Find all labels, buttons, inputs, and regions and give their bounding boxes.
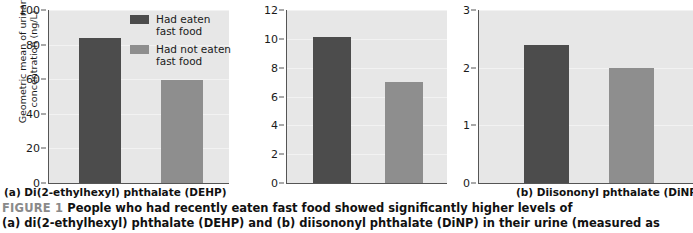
legend-swatch-had-eaten: [130, 15, 149, 24]
y-tick-label: 1: [463, 119, 470, 132]
gridline: [479, 10, 693, 11]
legend-item-had-not-eaten: Had not eaten fast food: [130, 43, 231, 67]
plot-area-b: [287, 10, 447, 183]
y-tick-label: 8: [271, 61, 278, 74]
y-tick-mark: [41, 148, 46, 149]
y-tick-label: 40: [26, 107, 40, 120]
legend-label-had-eaten: Had eaten fast food: [156, 13, 210, 37]
y-tick-label: 0: [463, 177, 470, 190]
gridline: [287, 154, 447, 155]
gridline: [287, 10, 447, 11]
x-axis-line-b: [286, 183, 447, 184]
gridline: [287, 125, 447, 126]
y-tick-mark: [41, 113, 46, 114]
x-axis-line-a: [48, 183, 229, 184]
chart-panel-c: 0123 (c) Bisphenol A (BPA): [452, 0, 693, 200]
y-tick-label: 20: [26, 142, 40, 155]
chart-panel-b: 024681012 (b) Diisononyl phthalate (DiNP…: [252, 0, 452, 200]
bar-b-had-eaten: [313, 37, 351, 183]
legend: Had eaten fast food Had not eaten fast f…: [130, 13, 231, 73]
y-tick-mark: [41, 183, 46, 184]
caption-text-1: People who had recently eaten fast food …: [67, 201, 572, 215]
y-tick-mark: [41, 10, 46, 11]
y-tick-label: 12: [264, 4, 278, 17]
y-tick-mark: [471, 10, 476, 11]
y-tick-mark: [41, 79, 46, 80]
y-axis-ticks-c: 0123: [448, 0, 478, 200]
y-tick-label: 100: [19, 4, 40, 17]
gridline: [49, 10, 229, 11]
figure-caption: FIGURE 1 People who had recently eaten f…: [0, 201, 693, 233]
y-tick-mark: [279, 183, 284, 184]
bar-a-had-not-eaten: [161, 80, 203, 183]
y-tick-label: 2: [463, 61, 470, 74]
caption-line-2: (a) di(2-ethylhexyl) phthalate (DEHP) an…: [0, 216, 693, 231]
gridline: [287, 39, 447, 40]
caption-line-1: FIGURE 1 People who had recently eaten f…: [0, 201, 693, 216]
y-tick-mark: [471, 183, 476, 184]
y-axis-ticks-b: 024681012: [256, 0, 286, 200]
y-tick-label: 2: [271, 148, 278, 161]
y-tick-mark: [279, 10, 284, 11]
y-tick-mark: [279, 96, 284, 97]
y-tick-label: 0: [271, 177, 278, 190]
y-tick-mark: [41, 44, 46, 45]
y-tick-mark: [279, 67, 284, 68]
bar-b-had-not-eaten: [385, 82, 423, 183]
y-tick-label: 4: [271, 119, 278, 132]
y-tick-mark: [471, 67, 476, 68]
y-tick-mark: [279, 125, 284, 126]
y-tick-label: 3: [463, 4, 470, 17]
y-tick-label: 80: [26, 38, 40, 51]
y-axis-ticks-a: 020406080100: [18, 0, 48, 200]
legend-item-had-eaten: Had eaten fast food: [130, 13, 231, 37]
y-tick-mark: [279, 154, 284, 155]
y-tick-label: 10: [264, 32, 278, 45]
legend-label-had-not-eaten: Had not eaten fast food: [156, 43, 231, 67]
legend-swatch-had-not-eaten: [130, 45, 149, 54]
y-tick-mark: [279, 38, 284, 39]
gridline: [287, 97, 447, 98]
y-tick-label: 60: [26, 73, 40, 86]
chart-panel-a: Geometric mean of urinary concentration …: [0, 0, 252, 200]
bar-a-had-eaten: [79, 38, 121, 183]
bar-c-had-eaten: [524, 45, 569, 183]
panel-caption-a: (a) Di(2-ethylhexyl) phthalate (DEHP): [4, 186, 226, 198]
gridline: [287, 68, 447, 69]
y-tick-mark: [471, 125, 476, 126]
bar-c-had-not-eaten: [609, 68, 654, 183]
gridline: [479, 125, 693, 126]
gridline: [479, 68, 693, 69]
plot-area-c: [479, 10, 693, 183]
figure-plot-area: Geometric mean of urinary concentration …: [0, 0, 693, 200]
y-tick-label: 6: [271, 90, 278, 103]
x-axis-line-c: [478, 183, 693, 184]
figure-label: FIGURE 1: [2, 201, 63, 215]
